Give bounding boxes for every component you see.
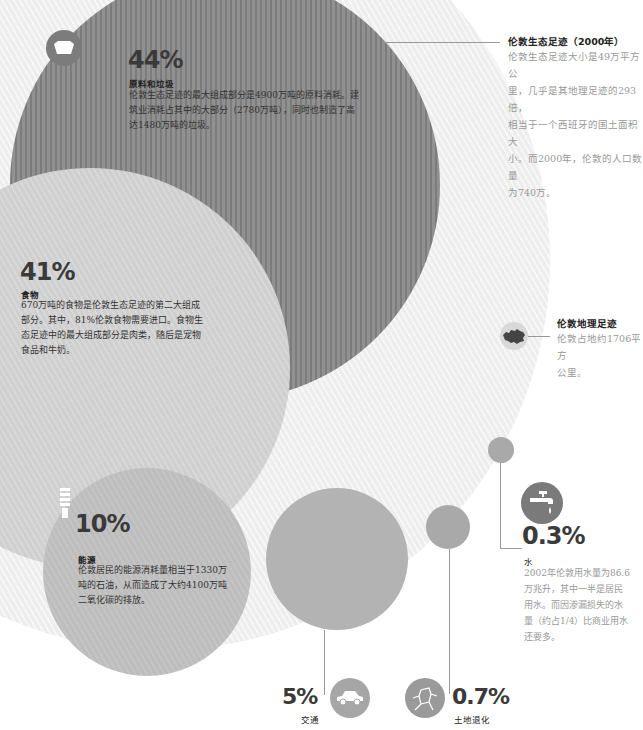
transport-label: 交通 bbox=[301, 713, 319, 725]
transport-percent: 5% bbox=[282, 684, 317, 709]
geographic-footprint-description: 伦敦占地约1706平方 公里。 bbox=[557, 330, 643, 381]
light-bulb-icon bbox=[58, 488, 72, 518]
land-connector bbox=[449, 549, 450, 694]
food-description: 670万吨的食物是伦敦生态足迹的第二大组成 部分。其中，81%伦敦食物需要进口。… bbox=[21, 298, 231, 358]
food-percent: 41% bbox=[20, 258, 74, 286]
ecological-footprint-title: 伦敦生态足迹（2000年） bbox=[508, 34, 624, 48]
geographic-footprint-title: 伦敦地理足迹 bbox=[557, 316, 617, 330]
transport-connector bbox=[324, 630, 325, 695]
ecological-connector bbox=[385, 42, 500, 43]
water-description: 2002年伦敦用水量为86.6 万兆升，其中一半是居民 用水。而因渗漏损失的水 … bbox=[524, 565, 639, 645]
land-percent: 0.7% bbox=[452, 684, 509, 709]
london-map-icon bbox=[500, 322, 528, 350]
materials-description: 伦敦生态足迹的最大组成部分是4900万吨的原料消耗。建 筑业消耗占其中的大部分（… bbox=[129, 88, 389, 133]
ecological-footprint-description: 伦敦生态足迹大小是49万平方公 里，几乎是其地理足迹的293倍， 相当于一个西班… bbox=[508, 48, 643, 201]
pot-icon bbox=[46, 30, 82, 66]
transport-circle bbox=[266, 488, 408, 630]
infographic: 44% 原料和垃圾 伦敦生态足迹的最大组成部分是4900万吨的原料消耗。建 筑业… bbox=[0, 0, 643, 730]
land-label: 土地退化 bbox=[454, 713, 490, 725]
water-connector-h bbox=[500, 548, 522, 549]
water-percent: 0.3% bbox=[522, 522, 585, 550]
water-circle bbox=[488, 437, 514, 463]
car-icon bbox=[330, 678, 370, 718]
geographic-connector bbox=[528, 336, 550, 337]
energy-percent: 10% bbox=[75, 510, 129, 538]
materials-percent: 44% bbox=[128, 46, 182, 74]
land-circle bbox=[426, 505, 470, 549]
energy-description: 伦敦居民的能源消耗量相当于1330万 吨的石油，从而造成了大约4100万吨 二氧… bbox=[78, 563, 248, 608]
water-connector-v bbox=[500, 463, 501, 548]
cracked-earth-icon bbox=[405, 678, 445, 718]
faucet-icon bbox=[521, 482, 563, 524]
